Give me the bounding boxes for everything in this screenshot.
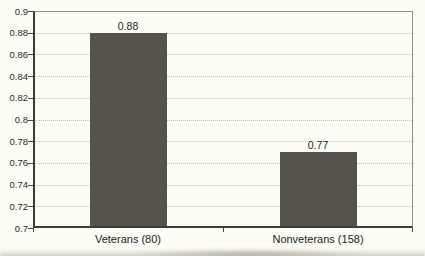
y-axis-tick-mark <box>28 33 33 34</box>
bar-veterans-80 <box>90 33 167 226</box>
scan-smudge <box>130 250 370 256</box>
y-axis-tick-label: 0.74 <box>0 179 28 190</box>
y-axis-tick-label: 0.86 <box>0 49 28 60</box>
y-axis-tick-mark <box>28 98 33 99</box>
bar-value-label: 0.77 <box>278 139 358 151</box>
x-axis-category-label: Nonveterans (158) <box>248 233 388 246</box>
y-axis-tick-label: 0.72 <box>0 201 28 212</box>
y-axis-tick-label: 0.78 <box>0 136 28 147</box>
y-axis-tick-mark <box>28 120 33 121</box>
y-axis-tick-mark <box>28 206 33 207</box>
y-axis-tick-label: 0.88 <box>0 27 28 38</box>
bar-nonveterans-158 <box>280 152 357 226</box>
y-axis-tick-mark <box>28 76 33 77</box>
scan-shadow <box>0 249 425 256</box>
x-axis-category-label: Veterans (80) <box>58 233 198 246</box>
y-axis-tick-label: 0.82 <box>0 92 28 103</box>
y-axis-tick-label: 0.9 <box>0 6 28 17</box>
x-axis-tick-mark <box>223 228 224 232</box>
x-axis-tick-mark <box>412 228 413 232</box>
y-axis-tick-mark <box>28 11 33 12</box>
y-axis-tick-label: 0.7 <box>0 223 28 234</box>
bar-value-label: 0.88 <box>88 20 168 32</box>
y-axis-tick-mark <box>28 141 33 142</box>
y-axis-tick-label: 0.84 <box>0 71 28 82</box>
bar-chart-figure: 0.90.880.860.840.820.80.780.760.740.720.… <box>0 0 425 256</box>
y-axis-tick-mark <box>28 54 33 55</box>
y-axis-tick-label: 0.8 <box>0 114 28 125</box>
y-axis-tick-mark <box>28 185 33 186</box>
y-axis-tick-label: 0.76 <box>0 157 28 168</box>
x-axis-tick-mark <box>33 228 34 232</box>
y-axis-tick-mark <box>28 163 33 164</box>
